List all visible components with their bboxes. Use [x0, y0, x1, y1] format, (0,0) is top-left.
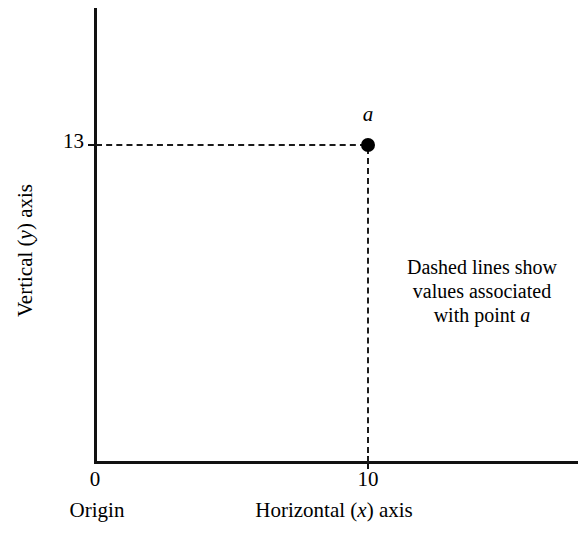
- x-axis-tick-label-10: 10: [338, 469, 398, 490]
- annotation-line-3: with point a: [384, 303, 580, 327]
- origin-label: Origin: [40, 500, 154, 521]
- y-axis-title-suffix: ) axis: [13, 184, 37, 230]
- y-axis-title-prefix: Vertical (: [13, 239, 37, 317]
- annotation-line-1: Dashed lines show: [384, 255, 580, 279]
- annotation-line-2: values associated: [384, 279, 580, 303]
- annotation-line-3-prefix: with point: [434, 304, 521, 326]
- y-axis-title: Vertical (y) axis: [15, 101, 36, 401]
- dashed-line-annotation: Dashed lines show values associated with…: [384, 255, 580, 327]
- data-point-a-label: a: [350, 104, 386, 125]
- annotation-point-variable: a: [520, 304, 530, 326]
- coordinate-plane-figure: a 13 10 0 Origin Horizontal (x) axis Ver…: [0, 0, 588, 543]
- x-axis-title: Horizontal (x) axis: [184, 500, 484, 521]
- data-point-a: [361, 138, 375, 152]
- x-axis-title-variable: x: [357, 498, 366, 522]
- x-axis-line: [94, 461, 578, 464]
- x-axis-title-suffix: ) axis: [367, 498, 413, 522]
- horizontal-dashed-guide: [96, 144, 366, 146]
- vertical-dashed-guide: [367, 148, 369, 463]
- y-axis-title-variable: y: [13, 230, 37, 239]
- origin-zero-label: 0: [68, 469, 122, 490]
- y-axis-tick-label-13: 13: [40, 131, 84, 152]
- y-axis-line: [94, 8, 97, 464]
- x-axis-title-prefix: Horizontal (: [255, 498, 357, 522]
